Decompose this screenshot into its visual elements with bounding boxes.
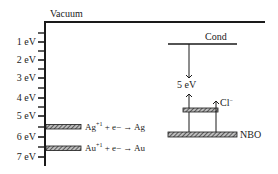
ag-reaction-label: Ag+1 + e− → Ag: [85, 122, 145, 132]
au-level-bar: [46, 146, 81, 151]
cl-level-bar: [183, 108, 218, 112]
tick-label-2ev: 2 eV: [0, 55, 36, 65]
tick-label-7ev: 7 eV: [0, 152, 36, 162]
ag-level-bar: [46, 125, 81, 130]
gap-label: 5 eV: [177, 80, 196, 90]
tick-label-1ev: 1 eV: [0, 37, 36, 47]
au-reaction-label: Au+1 + e− → Au: [85, 143, 145, 153]
cl-label: Cl−: [220, 98, 233, 108]
energy-axis: [38, 21, 45, 166]
tick-label-6ev: 6 eV: [0, 132, 36, 142]
vacuum-label: Vacuum: [50, 9, 83, 19]
tick-label-3ev: 3 eV: [0, 73, 36, 83]
nbo-label: NBO: [240, 130, 261, 140]
tick-label-4ev: 4 eV: [0, 93, 36, 103]
cond-label: Cond: [205, 32, 227, 42]
energy-level-diagram: Vacuum 1 eV 2 eV 3 eV 4 eV 5 eV 6 eV 7 e…: [0, 0, 278, 174]
nbo-level-bar: [168, 132, 237, 137]
tick-label-5ev: 5 eV: [0, 111, 36, 121]
